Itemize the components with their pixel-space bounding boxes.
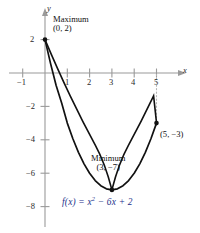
point-endpoint-marker [154, 121, 159, 126]
y-tick-label-neg2: −2 [26, 102, 35, 111]
equation-term1-exponent: 2 [92, 195, 95, 202]
function-equation: f(x) = x2 − 6x + 2 [62, 196, 133, 208]
equation-fx: f(x) [62, 197, 76, 207]
x-axis [9, 70, 186, 76]
equation-term3: + 2 [119, 197, 133, 207]
minimum-annotation-point: (3, −7) [91, 163, 125, 172]
x-tick-label-2: 2 [87, 78, 91, 87]
y-tick-label-neg4: −4 [26, 135, 35, 144]
x-tick-label-neg1: −1 [17, 78, 26, 87]
x-tick-label-5: 5 [154, 78, 158, 87]
minimum-annotation: Minimum (3, −7) [91, 154, 125, 172]
point-minimum-marker [110, 188, 115, 193]
equation-term2: − 6x [98, 197, 116, 207]
y-tick-label-neg8: −8 [26, 202, 35, 211]
endpoint-annotation: (5, −3) [160, 130, 183, 139]
x-tick-label-3: 3 [109, 78, 113, 87]
x-tick-label-1: 1 [65, 78, 69, 87]
endpoint-annotation-point: (5, −3) [160, 130, 183, 139]
y-tick-label-neg6: −6 [26, 169, 35, 178]
x-axis-label: x [183, 66, 187, 75]
maximum-annotation: Maximum (0, 2) [53, 15, 89, 33]
x-tick-label-4: 4 [131, 78, 135, 87]
quadratic-function-graph-figure: Graph of a quadratic function on a close… [0, 0, 200, 233]
y-axis-label: y [47, 4, 51, 13]
y-tick-label-2: 2 [30, 35, 34, 44]
equation-equals: = [78, 197, 85, 207]
point-maximum-marker [43, 37, 48, 42]
maximum-annotation-point: (0, 2) [53, 24, 89, 33]
